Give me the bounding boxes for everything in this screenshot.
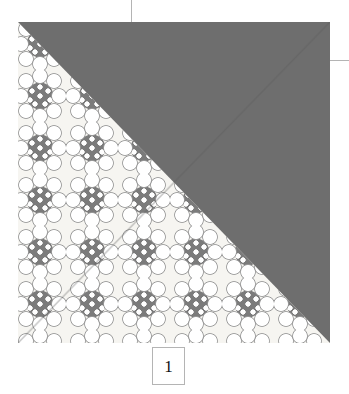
diagram-canvas: 1 bbox=[0, 0, 349, 394]
quilt-block bbox=[18, 22, 330, 343]
step-number-box: 1 bbox=[152, 347, 185, 385]
callout-leader-right bbox=[329, 60, 349, 61]
step-number-text: 1 bbox=[164, 358, 173, 375]
